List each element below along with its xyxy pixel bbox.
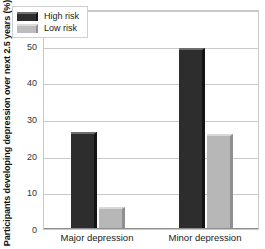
x-axis-category-labels: Major depressionMinor depression [43, 232, 259, 248]
y-tick-label: 20 [27, 152, 37, 162]
dark-swatch-icon [17, 12, 38, 21]
bar-low-risk-minor-depression [207, 134, 233, 229]
y-axis-title-text: Participants developing depression over … [2, 0, 12, 246]
x-tick-label: Major depression [61, 232, 134, 243]
y-tick-label: 30 [27, 115, 37, 125]
y-tick-label: 50 [27, 42, 37, 52]
legend-label-low-risk: Low risk [44, 23, 77, 33]
light-swatch-icon [17, 24, 38, 33]
bars [44, 11, 258, 229]
y-tick-label: 10 [27, 188, 37, 198]
bar-low-risk-major-depression [99, 207, 125, 229]
y-axis-tick-labels: 0102030405060 [14, 6, 40, 234]
legend: High risk Low risk [12, 6, 88, 38]
legend-item-low-risk: Low risk [17, 22, 79, 34]
x-axis-baseline [44, 228, 258, 229]
x-tick-label: Minor depression [169, 232, 242, 243]
legend-item-high-risk: High risk [17, 10, 79, 22]
y-tick-label: 40 [27, 78, 37, 88]
bar-high-risk-minor-depression [179, 48, 205, 230]
bar-chart: Participants developing depression over … [0, 0, 265, 249]
plot-area [43, 10, 259, 230]
y-tick-label: 0 [32, 225, 37, 235]
legend-label-high-risk: High risk [44, 11, 79, 21]
bar-high-risk-major-depression [71, 132, 97, 229]
